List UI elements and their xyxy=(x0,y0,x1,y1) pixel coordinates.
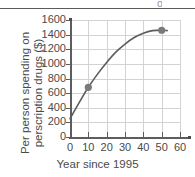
data-point-marker xyxy=(85,84,92,91)
x-axis-title: Year since 1995 xyxy=(0,158,195,171)
y-axis-title: Per person spending on perscription drug… xyxy=(19,18,45,168)
y-axis-title-wrap: Per person spending on perscription drug… xyxy=(4,8,36,150)
data-point-marker xyxy=(158,27,165,34)
trend-curve xyxy=(70,30,167,119)
data-point-markers xyxy=(85,27,166,91)
chart-figure: g 02004006008001000120014001600 01020304… xyxy=(0,0,195,177)
